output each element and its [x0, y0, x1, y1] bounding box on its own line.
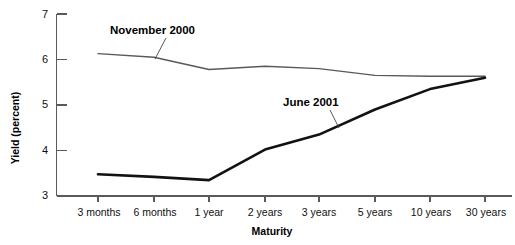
- x-tick-label-1-year: 1 year: [194, 206, 224, 218]
- november-leader-line: [155, 38, 166, 59]
- series-label-november-2000: November 2000: [110, 24, 195, 36]
- x-tick-label-6-months: 6 months: [133, 206, 176, 218]
- x-axis-title: Maturity: [252, 225, 293, 237]
- y-tick-label-6: 6: [42, 53, 48, 65]
- x-tick-label-3-months: 3 months: [77, 206, 120, 218]
- x-tick-label-3-years: 3 years: [302, 206, 336, 218]
- x-tick-label-10-years: 10 years: [411, 206, 451, 218]
- x-tick-label-30-years: 30 years: [466, 206, 506, 218]
- y-axis-title: Yield (percent): [9, 92, 21, 165]
- y-tick-label-4: 4: [42, 144, 48, 156]
- x-tick-label-5-years: 5 years: [358, 206, 392, 218]
- series-line-june-2001: [98, 78, 485, 180]
- x-tick-label-2-years: 2 years: [248, 206, 282, 218]
- y-tick-label-7: 7: [42, 8, 48, 20]
- y-tick-label-5: 5: [42, 98, 48, 110]
- june-leader-line: [330, 110, 339, 128]
- y-tick-label-3: 3: [42, 189, 48, 201]
- yield-curve-chart: Yield (percent) 7 6 5 4 3 3 months 6 mon…: [0, 0, 515, 245]
- chart-canvas: Yield (percent) 7 6 5 4 3 3 months 6 mon…: [0, 0, 515, 245]
- series-label-june-2001: June 2001: [283, 96, 339, 108]
